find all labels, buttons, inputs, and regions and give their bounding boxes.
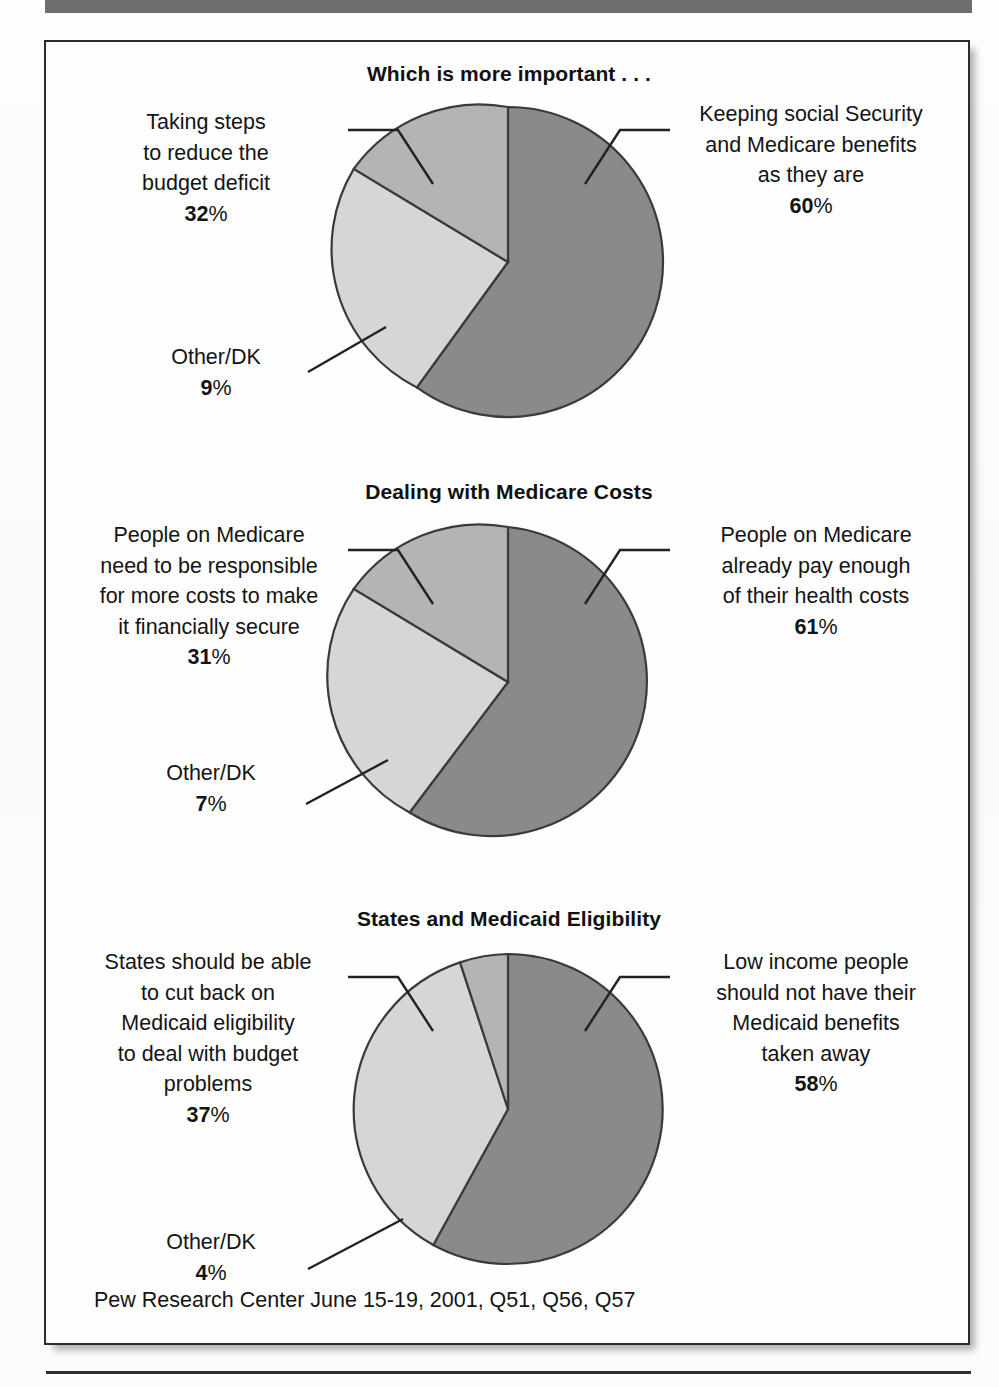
bottom-divider-rule: [46, 1371, 971, 1374]
chart-2-pie-svg: [278, 492, 738, 852]
source-note: Pew Research Center June 15-19, 2001, Q5…: [94, 1288, 635, 1313]
chart-3-leader-other: [308, 1219, 403, 1269]
top-decorative-band: [45, 0, 972, 13]
chart-panel: Which is more important . . . Taking ste…: [44, 40, 970, 1345]
chart-2-pie: [278, 492, 738, 852]
chart-3-pie: [278, 919, 738, 1319]
chart-3-pie-svg: [278, 919, 738, 1319]
chart-1-pie: [278, 72, 738, 432]
chart-1-pie-svg: [278, 72, 738, 432]
